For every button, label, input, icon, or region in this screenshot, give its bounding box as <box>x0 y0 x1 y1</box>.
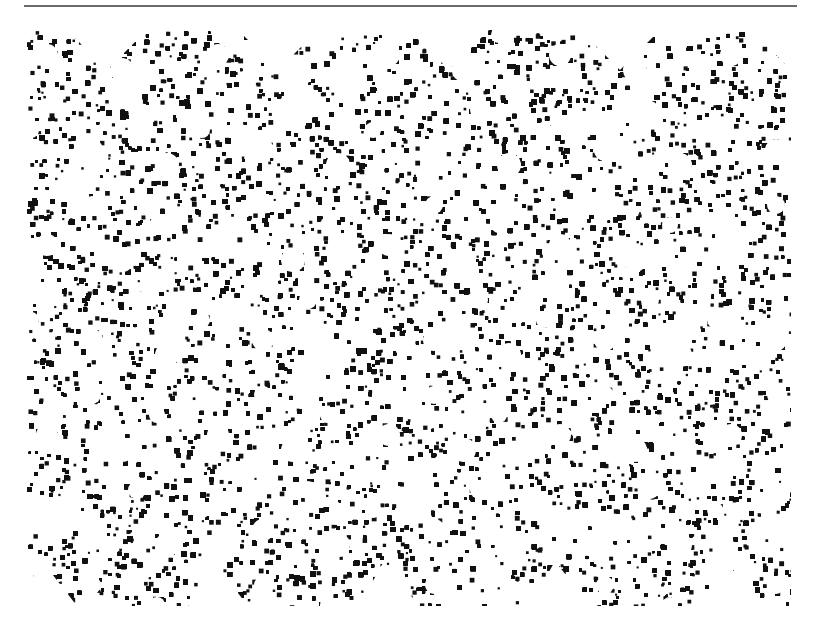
fractal-tiling-image <box>27 30 791 606</box>
fractal-canvas <box>27 30 791 606</box>
top-horizontal-rule <box>24 5 797 7</box>
